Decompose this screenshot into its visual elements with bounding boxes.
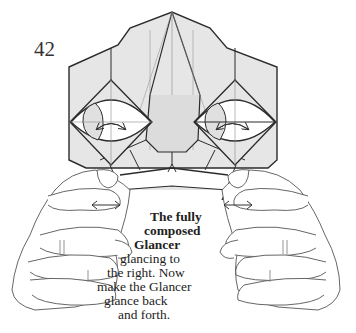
caption-line: The fully	[130, 210, 260, 224]
caption-line: and forth.	[118, 308, 260, 322]
caption: The fully composed Glancer glancing to t…	[130, 210, 260, 322]
caption-line: make the Glancer	[97, 280, 260, 294]
caption-line: glancing to	[120, 252, 260, 266]
diagram-stage: 42 The fully composed Glancer glancing t…	[0, 0, 356, 333]
caption-line: glance back	[104, 294, 260, 308]
caption-line: the right. Now	[107, 266, 260, 280]
caption-line: Glancer	[130, 238, 260, 252]
step-number: 42	[34, 37, 55, 62]
caption-line: composed	[130, 224, 260, 238]
